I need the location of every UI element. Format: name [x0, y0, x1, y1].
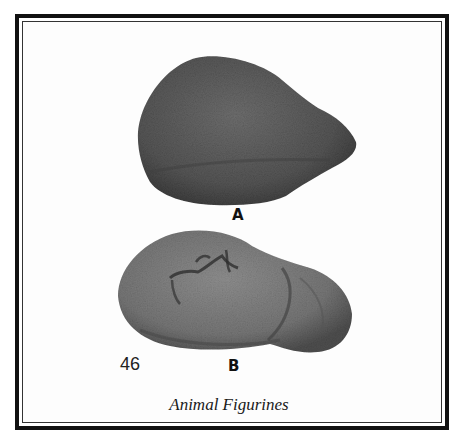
figurine-b-photo	[118, 230, 352, 352]
panel-label-b: B	[228, 359, 239, 374]
figurine-a-photo	[138, 56, 356, 205]
panel-label-a: A	[232, 208, 244, 223]
page-number: 46	[120, 355, 140, 373]
figure-caption: Animal Figurines	[0, 396, 458, 413]
